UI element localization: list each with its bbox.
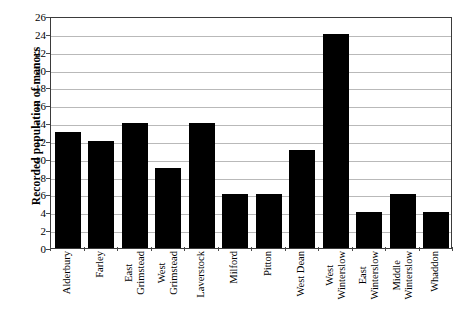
x-tick-mark	[385, 247, 386, 251]
bar	[323, 34, 349, 248]
y-tick-label: 18	[6, 83, 46, 94]
bar	[222, 194, 248, 248]
x-tick-label: WestWinterslow	[318, 251, 352, 321]
x-tick-mark	[151, 247, 152, 251]
x-tick-mark	[184, 247, 185, 251]
x-tick-mark	[50, 247, 51, 251]
x-tick-label-end	[452, 251, 453, 321]
y-tick-label: 12	[6, 137, 46, 148]
y-tick-label: 20	[6, 66, 46, 77]
bar	[155, 168, 181, 248]
x-tick-label: Alderbury	[50, 251, 84, 321]
x-tick-label: Farley	[84, 251, 118, 321]
bar	[55, 132, 81, 248]
y-tick-label: 26	[6, 12, 46, 23]
bar-chart-figure: Recorded population of manors 0246810121…	[0, 0, 466, 322]
y-tick-label: 0	[6, 244, 46, 255]
y-tick-label: 2	[6, 226, 46, 237]
plot-area	[50, 17, 452, 249]
chart-title	[60, 0, 400, 3]
y-tick-label: 8	[6, 173, 46, 184]
bar	[423, 212, 449, 248]
x-tick-mark	[452, 247, 453, 251]
x-tick-label: EastGrimstead	[117, 251, 151, 321]
bar	[122, 123, 148, 248]
y-tick-label: 10	[6, 155, 46, 166]
x-tick-mark	[84, 247, 85, 251]
y-tick-label: 4	[6, 208, 46, 219]
x-tick-label: EastWinterslow	[352, 251, 386, 321]
bar	[390, 194, 416, 248]
x-tick-mark	[419, 247, 420, 251]
bars-layer	[51, 18, 451, 248]
x-tick-label: WestGrimstead	[151, 251, 185, 321]
x-tick-label: Milford	[218, 251, 252, 321]
x-tick-label: Pitton	[251, 251, 285, 321]
bar	[289, 150, 315, 248]
x-tick-mark	[251, 247, 252, 251]
y-tick-label: 22	[6, 48, 46, 59]
y-tick-label: 6	[6, 190, 46, 201]
bar	[256, 194, 282, 248]
x-tick-mark	[352, 247, 353, 251]
bar	[189, 123, 215, 248]
y-tick-label: 14	[6, 119, 46, 130]
x-tick-label: Whaddon	[419, 251, 453, 321]
y-tick-label: 24	[6, 30, 46, 41]
y-axis-ticks: 02468101214161820222426	[0, 17, 46, 249]
x-tick-label: Laverstock	[184, 251, 218, 321]
x-tick-mark	[318, 247, 319, 251]
bar	[88, 141, 114, 248]
x-tick-mark	[218, 247, 219, 251]
x-axis-labels: AlderburyFarleyEastGrimsteadWestGrimstea…	[50, 251, 452, 322]
bar	[356, 212, 382, 248]
x-tick-mark	[117, 247, 118, 251]
y-tick-label: 16	[6, 101, 46, 112]
x-tick-label: West Dean	[285, 251, 319, 321]
x-tick-label: MiddleWinterslow	[385, 251, 419, 321]
x-tick-mark	[285, 247, 286, 251]
